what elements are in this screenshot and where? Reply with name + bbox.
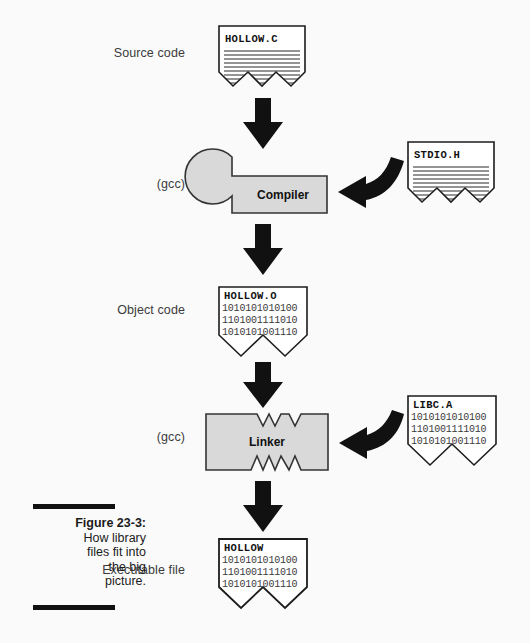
- file-icon-header: STDIO.H: [408, 142, 494, 202]
- file-icon-object: HOLLOW.O 1010101010100 1101001111010 101…: [219, 287, 307, 356]
- file-icon-source: HOLLOW.C: [219, 26, 305, 86]
- binary-line: 1010101010100: [411, 412, 487, 423]
- file-icon-library: LIBC.A 1010101010100 1101001111010 10101…: [408, 396, 496, 465]
- arrow-curved-header-to-compiler: [338, 157, 404, 208]
- file-icon-executable: HOLLOW 1010101010100 1101001111010 10101…: [219, 539, 307, 608]
- arrow-down-linker-to-executable: [243, 481, 283, 532]
- binary-line: 1010101001110: [222, 579, 298, 590]
- arrow-down-object-to-linker: [243, 362, 283, 408]
- process-box-linker: Linker: [206, 414, 328, 470]
- arrow-down-compiler-to-object: [243, 224, 283, 275]
- binary-line: 1010101010100: [222, 555, 298, 566]
- figure-canvas: Source code (gcc) Object code (gcc) Exec…: [0, 0, 530, 643]
- file-label-source: HOLLOW.C: [225, 33, 278, 45]
- file-binary-lines-executable: 1010101010100 1101001111010 101010100111…: [222, 555, 298, 590]
- file-label-object: HOLLOW.O: [224, 290, 277, 302]
- compiler-shape: [185, 149, 327, 213]
- compiler-label: Compiler: [257, 188, 309, 202]
- binary-line: 1010101010100: [222, 303, 298, 314]
- binary-line: 1101001111010: [411, 424, 487, 435]
- arrow-down-source-to-compiler: [243, 98, 283, 149]
- file-binary-lines-library: 1010101010100 1101001111010 101010100111…: [411, 412, 487, 447]
- binary-line: 1010101001110: [222, 327, 298, 338]
- binary-line: 1010101001110: [411, 436, 487, 447]
- diagram-graphics: HOLLOW.C Compiler: [0, 0, 530, 643]
- process-box-compiler: Compiler: [185, 149, 327, 213]
- file-label-executable: HOLLOW: [224, 542, 264, 554]
- binary-line: 1101001111010: [222, 315, 298, 326]
- file-label-header: STDIO.H: [414, 149, 460, 161]
- file-label-library: LIBC.A: [413, 399, 453, 411]
- binary-line: 1101001111010: [222, 567, 298, 578]
- arrow-curved-library-to-linker: [339, 410, 404, 459]
- file-binary-lines-object: 1010101010100 1101001111010 101010100111…: [222, 303, 298, 338]
- linker-label: Linker: [249, 435, 285, 449]
